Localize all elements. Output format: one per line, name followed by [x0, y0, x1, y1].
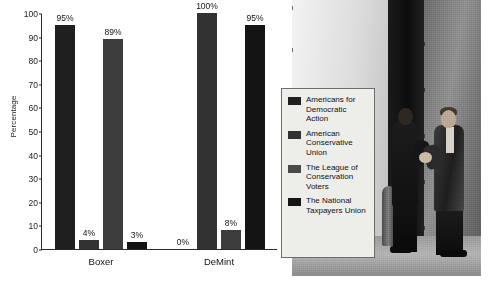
y-tick-label: 100	[24, 9, 38, 19]
y-tick-label: 50	[29, 127, 38, 137]
y-tick-mark	[39, 132, 42, 133]
bar: 95%	[245, 25, 265, 249]
x-axis-group-label: Boxer	[89, 256, 114, 267]
legend-item: The National Taxpayers Union	[288, 196, 369, 215]
y-tick-mark	[39, 226, 42, 227]
figure-root: Percentage 0102030405060708090100 95%4%8…	[0, 0, 490, 285]
y-tick-mark	[39, 179, 42, 180]
bar: 89%	[103, 39, 123, 249]
y-tick-label: 30	[29, 174, 38, 184]
legend-item: The League of Conservation Voters	[288, 163, 369, 192]
y-tick-mark	[39, 202, 42, 203]
legend: Americans for Democratic ActionAmerican …	[281, 88, 375, 258]
y-tick-label: 70	[29, 80, 38, 90]
y-tick-label: 40	[29, 151, 38, 161]
bar-value-label: 89%	[104, 27, 121, 37]
bar-value-label: 3%	[131, 230, 143, 240]
y-tick-mark	[39, 250, 42, 251]
y-tick-label: 60	[29, 103, 38, 113]
x-axis-group-label: DeMint	[204, 256, 234, 267]
legend-swatch	[288, 97, 301, 105]
y-axis-label: Percentage	[9, 82, 18, 152]
y-tick-mark	[39, 14, 42, 15]
bar-value-label: 100%	[196, 1, 218, 11]
bar: 100%	[197, 13, 217, 249]
legend-label: American Conservative Union	[306, 129, 369, 158]
bar-value-label: 95%	[246, 13, 263, 23]
legend-label: The National Taxpayers Union	[306, 196, 369, 215]
legend-item: American Conservative Union	[288, 129, 369, 158]
bar: 95%	[55, 25, 75, 249]
bar-chart: Percentage 0102030405060708090100 95%4%8…	[0, 0, 292, 285]
y-tick-label: 0	[33, 245, 38, 255]
bar-value-label: 4%	[83, 228, 95, 238]
y-tick-mark	[39, 37, 42, 38]
bar: 8%	[221, 230, 241, 249]
y-tick-label: 90	[29, 33, 38, 43]
legend-label: The League of Conservation Voters	[306, 163, 369, 192]
y-tick-label: 10	[29, 221, 38, 231]
bar-value-label: 8%	[225, 218, 237, 228]
bar: 3%	[127, 242, 147, 249]
y-tick-label: 20	[29, 198, 38, 208]
legend-label: Americans for Democratic Action	[306, 95, 369, 124]
bar-value-label: 0%	[177, 237, 189, 247]
y-tick-mark	[39, 108, 42, 109]
y-tick-mark	[39, 61, 42, 62]
plot-area: 0102030405060708090100 95%4%89%3%0%100%8…	[41, 14, 277, 250]
bar: 4%	[79, 240, 99, 249]
legend-swatch	[288, 165, 301, 173]
y-tick-mark	[39, 155, 42, 156]
legend-swatch	[288, 131, 301, 139]
legend-item: Americans for Democratic Action	[288, 95, 369, 124]
legend-swatch	[288, 198, 301, 206]
y-tick-mark	[39, 84, 42, 85]
bar-value-label: 95%	[56, 13, 73, 23]
y-tick-label: 80	[29, 56, 38, 66]
